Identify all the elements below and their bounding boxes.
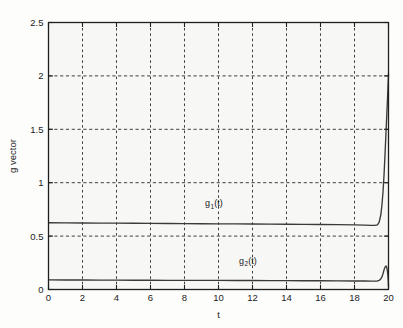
- y-axis-title: g vector: [7, 139, 18, 173]
- curve-annotation-suffix: (t): [248, 256, 256, 266]
- y-tick-label: 0.5: [30, 231, 43, 242]
- x-tick-label: 2: [80, 292, 85, 303]
- x-tick-label: 6: [148, 292, 153, 303]
- x-tick-label: 16: [315, 292, 326, 303]
- y-tick-label: 1: [38, 177, 43, 188]
- x-tick-label: 0: [46, 292, 51, 303]
- chart-figure: 02468101214161820 00.511.522.5 g1(t)g2(t…: [0, 0, 403, 328]
- x-tick-label: 8: [182, 292, 187, 303]
- y-tick-label: 2.5: [30, 17, 43, 28]
- y-tick-label: 2: [38, 70, 43, 81]
- x-tick-label: 4: [114, 292, 119, 303]
- x-axis-title: t: [217, 309, 220, 320]
- curve-annotation-suffix: (t): [214, 198, 223, 208]
- x-tick-label: 18: [349, 292, 360, 303]
- curve-annotation: g1(t): [205, 198, 223, 210]
- curve-annotation-text: g: [239, 256, 244, 266]
- x-tick-label: 12: [247, 292, 258, 303]
- y-tick-label: 0: [38, 284, 43, 295]
- x-tick-label: 10: [213, 292, 224, 303]
- curve-annotation: g2(t): [239, 256, 257, 268]
- x-tick-label: 14: [281, 292, 292, 303]
- curve-annotation-text: g: [205, 198, 210, 208]
- x-tick-label: 20: [383, 292, 394, 303]
- y-tick-label: 1.5: [30, 124, 43, 135]
- line-chart: 02468101214161820 00.511.522.5 g1(t)g2(t…: [0, 0, 403, 328]
